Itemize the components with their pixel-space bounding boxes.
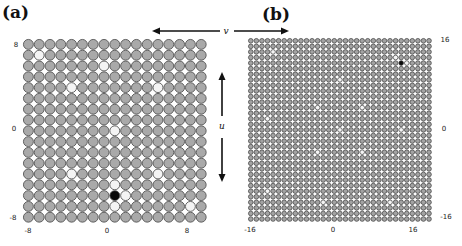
lattice-site (388, 72, 393, 77)
lattice-site (360, 122, 365, 127)
lattice-site (410, 133, 415, 138)
lattice-site (315, 128, 320, 133)
lattice-site (338, 111, 343, 116)
lattice-site (360, 217, 365, 222)
lattice-site (365, 83, 370, 88)
lattice-site (332, 77, 337, 82)
lattice-site (265, 139, 270, 144)
lattice-site (349, 105, 354, 110)
lattice-site (365, 133, 370, 138)
lattice-site (410, 72, 415, 77)
lattice-site (421, 183, 426, 188)
lattice-site (315, 94, 320, 99)
lattice-site (371, 94, 376, 99)
lattice-site (371, 66, 376, 71)
lattice-site (332, 133, 337, 138)
lattice-site (371, 144, 376, 149)
lattice-site (265, 50, 270, 55)
lattice-site (393, 83, 398, 88)
lattice-site (427, 194, 432, 199)
lattice-site (326, 194, 331, 199)
lattice-site (365, 155, 370, 160)
lattice-site (338, 72, 343, 77)
lattice-site (260, 128, 265, 133)
lattice-site (326, 161, 331, 166)
lattice-site (343, 94, 348, 99)
lattice-site (287, 122, 292, 127)
lattice-site (371, 38, 376, 43)
lattice-site (265, 105, 270, 110)
lattice-site (343, 72, 348, 77)
lattice-site (321, 172, 326, 177)
lattice-site (299, 55, 304, 60)
lattice-site (299, 72, 304, 77)
lattice-site (326, 44, 331, 49)
lattice-site (338, 183, 343, 188)
lattice-site (321, 167, 326, 172)
lattice-site (377, 38, 382, 43)
lattice-site (421, 217, 426, 222)
lattice-site (276, 94, 281, 99)
lattice-site (349, 44, 354, 49)
lattice-site (421, 206, 426, 211)
lattice-site (304, 38, 309, 43)
lattice-site (404, 116, 409, 121)
lattice-site (427, 189, 432, 194)
lattice-site (410, 194, 415, 199)
lattice-site (382, 116, 387, 121)
panel-a-xtick-left: -8 (25, 227, 32, 235)
lattice-site (310, 189, 315, 194)
lattice-site (399, 211, 404, 216)
lattice-site (310, 61, 315, 66)
lattice-site (293, 139, 298, 144)
lattice-site (260, 183, 265, 188)
lattice-site (349, 200, 354, 205)
lattice-site (338, 139, 343, 144)
lattice-site (382, 189, 387, 194)
lattice-site (271, 189, 276, 194)
lattice-site (282, 122, 287, 127)
lattice-site (293, 100, 298, 105)
lattice-site (343, 105, 348, 110)
lattice-site (254, 55, 259, 60)
lattice-site (326, 55, 331, 60)
lattice-site (287, 150, 292, 155)
panel-a-ytick-top: 8 (14, 41, 18, 49)
lattice-site (360, 194, 365, 199)
lattice-site (326, 94, 331, 99)
lattice-site (421, 161, 426, 166)
lattice-site (260, 122, 265, 127)
lattice-site (349, 150, 354, 155)
lattice-site (343, 122, 348, 127)
lattice-site (287, 178, 292, 183)
lattice-site (388, 178, 393, 183)
lattice-site (254, 50, 259, 55)
lattice-site (388, 50, 393, 55)
lattice-site (416, 217, 421, 222)
lattice-site (393, 155, 398, 160)
lattice-site (315, 111, 320, 116)
lattice-site (287, 105, 292, 110)
lattice-site (399, 122, 404, 127)
lattice-site (427, 94, 432, 99)
lattice-site (260, 94, 265, 99)
lattice-site (254, 111, 259, 116)
lattice-site (276, 100, 281, 105)
lattice-site (343, 139, 348, 144)
lattice-site (410, 206, 415, 211)
lattice-site (271, 200, 276, 205)
lattice-site (404, 100, 409, 105)
lattice-site (248, 206, 253, 211)
lattice-site (248, 111, 253, 116)
lattice-site (399, 100, 404, 105)
lattice-site (360, 50, 365, 55)
lattice-site (326, 183, 331, 188)
lattice-site (276, 172, 281, 177)
lattice-site (293, 217, 298, 222)
lattice-site (248, 155, 253, 160)
lattice-site (265, 172, 270, 177)
lattice-site (416, 122, 421, 127)
lattice-site (338, 189, 343, 194)
lattice-site (343, 50, 348, 55)
vacancy-site (360, 105, 365, 110)
